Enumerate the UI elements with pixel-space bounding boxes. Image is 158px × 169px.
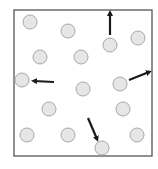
particle	[131, 31, 145, 45]
particle	[76, 82, 90, 96]
velocity-arrow-left	[34, 81, 54, 82]
particle	[103, 38, 117, 52]
particle	[95, 141, 109, 155]
particle	[61, 128, 75, 142]
particle	[23, 15, 37, 29]
particle	[33, 50, 47, 64]
particle	[42, 102, 56, 116]
particle	[116, 102, 130, 116]
particle	[113, 77, 127, 91]
particle	[61, 24, 75, 38]
particle	[15, 73, 29, 87]
particle-diagram	[0, 0, 158, 169]
particle	[74, 50, 88, 64]
particle	[20, 128, 34, 142]
particle	[130, 128, 144, 142]
